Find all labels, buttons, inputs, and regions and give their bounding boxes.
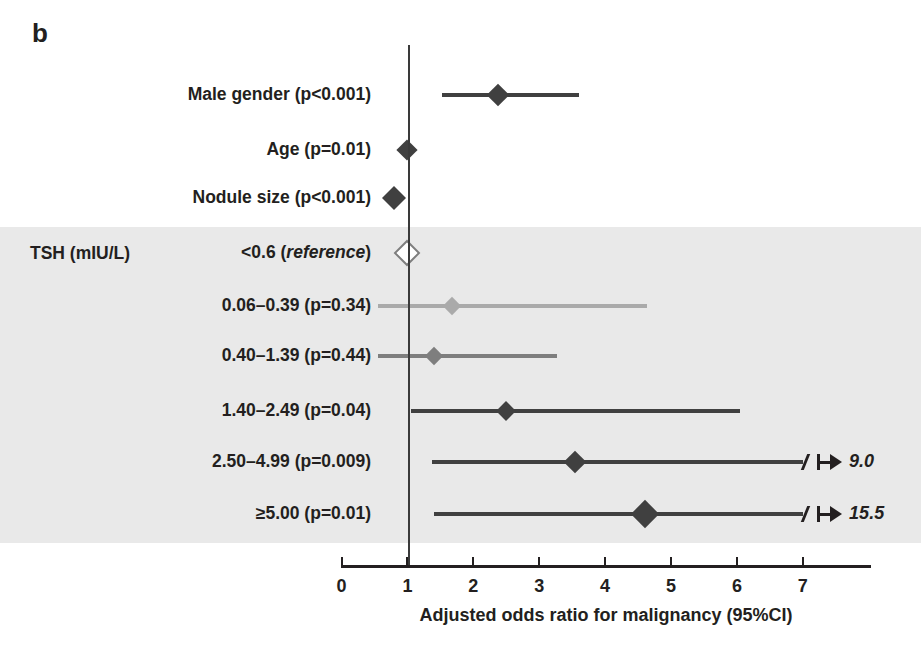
x-axis-tick	[406, 557, 408, 565]
reference-line	[408, 45, 410, 566]
row-label: 2.50–4.99 (p=0.009)	[0, 453, 371, 471]
row-label: 0.40–1.39 (p=0.44)	[0, 347, 371, 365]
row-label: Nodule size (p<0.001)	[0, 189, 371, 207]
x-axis-tick	[736, 557, 738, 565]
truncation-arrow-head	[830, 454, 842, 470]
x-axis-tick-label: 2	[453, 577, 493, 595]
confidence-interval-line	[411, 409, 740, 414]
x-axis-title: Adjusted odds ratio for malignancy (95%C…	[341, 606, 871, 624]
upper-limit-value: 15.5	[849, 504, 884, 522]
x-axis-line	[341, 565, 871, 568]
point-estimate-marker	[382, 186, 406, 210]
x-axis-tick	[802, 557, 804, 565]
shaded-band	[0, 227, 921, 543]
x-axis-tick	[538, 557, 540, 565]
x-axis-tick-label: 0	[322, 577, 362, 595]
confidence-interval-line	[434, 512, 803, 517]
x-axis-tick	[472, 557, 474, 565]
x-axis-tick	[604, 557, 606, 565]
confidence-interval-line	[442, 93, 579, 98]
confidence-interval-line	[378, 304, 647, 308]
panel-letter: b	[32, 18, 48, 49]
row-label: ≥5.00 (p=0.01)	[0, 505, 371, 523]
x-axis-tick-label: 6	[717, 577, 757, 595]
row-label: <0.6 (reference)	[0, 244, 371, 262]
x-axis-tick	[341, 557, 343, 565]
x-axis-tick-label: 5	[651, 577, 691, 595]
row-label: 0.06–0.39 (p=0.34)	[0, 297, 371, 315]
point-estimate-marker	[486, 84, 509, 107]
x-axis-tick-label: 4	[585, 577, 625, 595]
upper-limit-value: 9.0	[849, 452, 874, 470]
x-axis-tick	[670, 557, 672, 565]
confidence-interval-line	[432, 460, 803, 465]
confidence-interval-line	[378, 354, 557, 358]
x-axis-tick-label: 3	[519, 577, 559, 595]
row-label: Age (p=0.01)	[0, 141, 371, 159]
row-label: 1.40–2.49 (p=0.04)	[0, 402, 371, 420]
row-label: Male gender (p<0.001)	[0, 86, 371, 104]
x-axis-tick-label: 7	[783, 577, 823, 595]
truncation-arrow-head	[830, 506, 842, 522]
forest-plot-figure: b TSH (mIU/L) Male gender (p<0.001)Age (…	[0, 0, 921, 657]
x-axis-tick-label: 1	[387, 577, 427, 595]
